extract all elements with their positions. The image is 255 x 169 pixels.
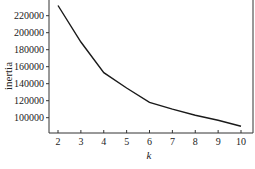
x-tick-label: 10 [236,136,246,147]
y-tick-label: 220000 [14,10,44,21]
y-tick-label: 120000 [14,95,44,106]
x-tick-label: 3 [78,136,83,147]
plot-frame [49,0,253,133]
y-tick-label: 160000 [14,61,44,72]
x-tick-label: 8 [193,136,198,147]
y-axis-label: inertia [2,62,14,90]
x-tick-label: 7 [170,136,175,147]
y-axis-ticks: 1000001200001400001600001800002000002200… [14,10,49,123]
x-tick-label: 9 [216,136,221,147]
y-tick-label: 140000 [14,78,44,89]
x-tick-label: 4 [101,136,106,147]
y-tick-label: 100000 [14,112,44,123]
inertia-line [58,6,241,127]
y-tick-label: 180000 [14,44,44,55]
x-axis-label: k [147,149,153,161]
y-tick-label: 200000 [14,27,44,38]
x-tick-label: 2 [56,136,61,147]
elbow-line-chart: 1000001200001400001600001800002000002200… [0,0,255,169]
x-tick-label: 6 [147,136,152,147]
x-tick-label: 5 [124,136,129,147]
